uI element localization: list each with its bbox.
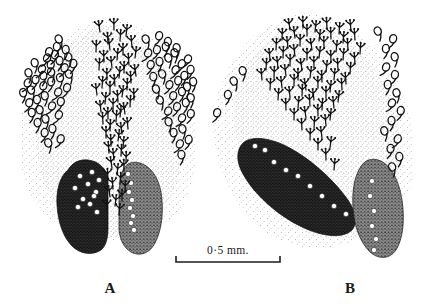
pore-spot-icon: [371, 247, 376, 252]
pore-spot-icon: [85, 181, 90, 186]
pore-spot-icon: [77, 173, 82, 178]
pore-spot-icon: [283, 167, 288, 172]
pore-spot-icon: [80, 196, 85, 201]
pore-spot-icon: [89, 169, 94, 174]
pore-spot-icon: [130, 213, 135, 218]
pore-spot-icon: [87, 201, 92, 206]
pore-spot-icon: [295, 173, 300, 178]
lobe-dark-right-a: [119, 162, 162, 254]
pore-spot-icon: [252, 143, 257, 148]
pore-spot-icon: [127, 205, 132, 210]
figure-plate: A B 0·5 mm.: [0, 0, 425, 307]
pore-spot-icon: [331, 203, 336, 208]
pore-spot-icon: [343, 211, 348, 216]
pore-spot-icon: [367, 193, 372, 198]
pore-spot-icon: [129, 197, 134, 202]
pore-spot-icon: [369, 223, 374, 228]
pore-spot-icon: [94, 209, 99, 214]
scale-bar-label: 0·5 mm.: [207, 244, 249, 256]
pore-spot-icon: [307, 183, 312, 188]
pore-spot-icon: [91, 193, 96, 198]
figure-canvas: A B 0·5 mm.: [0, 0, 425, 307]
pore-spot-icon: [262, 147, 267, 152]
pore-spot-icon: [125, 171, 130, 176]
pore-spot-icon: [126, 189, 131, 194]
panel-label-b: B: [345, 280, 355, 296]
pore-spot-icon: [271, 159, 276, 164]
panel-label-a: A: [105, 280, 116, 296]
pore-spot-icon: [128, 220, 133, 225]
pore-spot-icon: [72, 185, 77, 190]
pore-spot-icon: [369, 178, 374, 183]
pore-spot-icon: [373, 236, 378, 241]
pore-spot-icon: [96, 177, 101, 182]
pore-spot-icon: [371, 208, 376, 213]
pore-spot-icon: [75, 204, 80, 209]
pore-spot-icon: [131, 227, 136, 232]
pore-spot-icon: [319, 193, 324, 198]
